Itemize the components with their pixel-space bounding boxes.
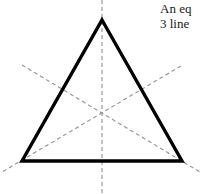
left-diagonal-symmetry-line [22,65,200,172]
caption-line-2: 3 line [160,16,202,31]
equilateral-triangle-shape [22,20,182,161]
right-diagonal-symmetry-line [2,66,181,172]
caption-text: An eq 3 line [160,1,202,31]
caption-line-1: An eq [160,1,202,16]
figure-canvas: An eq 3 line [0,0,202,194]
